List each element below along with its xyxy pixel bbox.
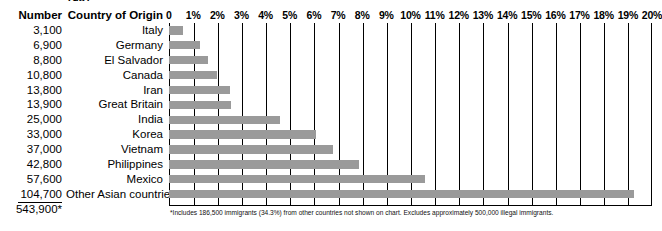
bar xyxy=(169,71,217,79)
x-tick-label-16: 16% xyxy=(545,9,565,21)
row-number: 37,000 xyxy=(0,142,62,157)
row-number: 10,800 xyxy=(0,68,62,83)
x-tick-label-1: 1% xyxy=(186,9,201,21)
row-country-label: Other Asian countries xyxy=(66,187,163,202)
row-country-label: Mexico xyxy=(66,172,163,187)
x-tick-label-11: 11% xyxy=(425,9,445,21)
x-tick-label-6: 6% xyxy=(307,9,322,21)
bar xyxy=(169,56,208,64)
table-row: 13,800Iran xyxy=(0,83,658,98)
bar xyxy=(169,26,183,34)
bar xyxy=(169,86,230,94)
x-tick-label-0: 0 xyxy=(166,9,172,21)
row-number: 104,700 xyxy=(0,187,62,202)
x-tick-label-12: 12% xyxy=(449,9,469,21)
axis-baseline xyxy=(169,205,652,206)
x-tick-label-9: 9% xyxy=(379,9,394,21)
table-row: 6,900Germany xyxy=(0,38,658,53)
x-tick-label-3: 3% xyxy=(234,9,249,21)
table-row: 10,800Canada xyxy=(0,68,658,83)
bar xyxy=(169,160,359,168)
row-country-label: India xyxy=(66,112,163,127)
row-number: 6,900 xyxy=(0,38,62,53)
x-tick-label-18: 18% xyxy=(593,9,613,21)
x-tick-label-5: 5% xyxy=(282,9,297,21)
chart-footnote: *Includes 186,500 immigrants (34.3%) fro… xyxy=(170,208,656,217)
x-tick-label-19: 19% xyxy=(618,9,638,21)
row-number: 13,900 xyxy=(0,97,62,112)
bar xyxy=(169,130,316,138)
row-country-label: Philippines xyxy=(66,157,163,172)
table-row: 8,800El Salvador xyxy=(0,53,658,68)
table-row: 3,100Italy xyxy=(0,23,658,38)
x-tick-label-13: 13% xyxy=(473,9,493,21)
row-country-label: El Salvador xyxy=(66,53,163,68)
x-tick-label-4: 4% xyxy=(258,9,273,21)
x-tick-label-2: 2% xyxy=(210,9,225,21)
row-number: 33,000 xyxy=(0,127,62,142)
x-tick-label-10: 10% xyxy=(400,9,420,21)
table-row: 33,000Korea xyxy=(0,127,658,142)
row-country-label: Great Britain xyxy=(66,97,163,112)
chart-rows: 3,100Italy6,900Germany8,800El Salvador10… xyxy=(0,23,658,202)
bar xyxy=(169,101,231,109)
row-country-label: Iran xyxy=(66,83,163,98)
x-tick-label-14: 14% xyxy=(497,9,517,21)
row-number: 8,800 xyxy=(0,53,62,68)
x-tick-label-15: 15% xyxy=(521,9,541,21)
bar xyxy=(169,41,200,49)
row-number: 57,600 xyxy=(0,172,62,187)
total-value: 543,900* xyxy=(0,202,62,217)
table-row: 57,600Mexico xyxy=(0,172,658,187)
table-row: 13,900Great Britain xyxy=(0,97,658,112)
row-number: 3,100 xyxy=(0,23,62,38)
row-country-label: Germany xyxy=(66,38,163,53)
x-tick-label-17: 17% xyxy=(569,9,589,21)
table-row: 104,700Other Asian countries xyxy=(0,187,658,202)
chart-title-clipped: 1987 xyxy=(66,0,91,1)
row-number: 13,800 xyxy=(0,83,62,98)
table-row: 25,000India xyxy=(0,112,658,127)
x-axis-tick-labels: 01%2%3%4%5%6%7%8%9%10%11%12%13%14%15%16%… xyxy=(0,9,658,22)
x-tick-label-7: 7% xyxy=(331,9,346,21)
table-row: 42,800Philippines xyxy=(0,157,658,172)
row-number: 25,000 xyxy=(0,112,62,127)
row-country-label: Vietnam xyxy=(66,142,163,157)
bar xyxy=(169,116,280,124)
row-number: 42,800 xyxy=(0,157,62,172)
x-tick-label-20: 20% xyxy=(642,9,662,21)
bar xyxy=(169,145,333,153)
row-country-label: Italy xyxy=(66,23,163,38)
bar xyxy=(169,190,634,198)
bar xyxy=(169,175,425,183)
row-country-label: Canada xyxy=(66,68,163,83)
row-country-label: Korea xyxy=(66,127,163,142)
x-tick-label-8: 8% xyxy=(355,9,370,21)
table-row: 37,000Vietnam xyxy=(0,142,658,157)
